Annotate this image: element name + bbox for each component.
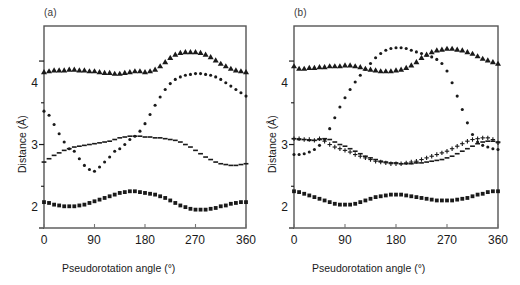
marker-plus bbox=[470, 137, 474, 141]
marker-square bbox=[189, 207, 193, 211]
series-dashed-line-series bbox=[292, 138, 501, 165]
marker-square bbox=[229, 202, 233, 206]
marker-triangle bbox=[117, 71, 123, 76]
panel-b-plot-area bbox=[250, 0, 520, 285]
marker-diamond bbox=[451, 81, 454, 84]
marker-diamond bbox=[379, 52, 382, 55]
marker-triangle bbox=[464, 49, 470, 54]
marker-square bbox=[173, 201, 177, 205]
marker-diamond bbox=[298, 153, 301, 156]
marker-diamond bbox=[154, 104, 157, 107]
marker-diamond bbox=[73, 150, 76, 153]
marker-diamond bbox=[461, 108, 464, 111]
marker-diamond bbox=[486, 145, 489, 148]
marker-triangle bbox=[495, 61, 501, 66]
marker-triangle bbox=[81, 67, 87, 72]
marker-dash bbox=[223, 164, 228, 166]
marker-diamond bbox=[333, 116, 336, 119]
marker-square bbox=[420, 196, 424, 200]
marker-square bbox=[184, 205, 188, 209]
marker-diamond bbox=[239, 91, 242, 94]
marker-dash bbox=[213, 161, 218, 163]
marker-diamond bbox=[189, 73, 192, 76]
marker-dash bbox=[353, 150, 358, 152]
marker-dash bbox=[127, 135, 132, 137]
marker-triangle bbox=[398, 67, 404, 72]
marker-triangle bbox=[327, 63, 333, 68]
marker-triangle bbox=[51, 67, 57, 72]
marker-triangle bbox=[177, 50, 183, 55]
marker-dash bbox=[163, 138, 168, 140]
marker-triangle bbox=[352, 63, 358, 68]
marker-square bbox=[496, 189, 500, 193]
marker-square bbox=[57, 204, 61, 208]
panel-b: (b) Distance (Å) Pseudorotation angle (°… bbox=[250, 0, 520, 285]
marker-triangle bbox=[56, 67, 62, 72]
marker-diamond bbox=[78, 157, 81, 160]
marker-square bbox=[209, 207, 213, 211]
marker-dash bbox=[470, 145, 475, 147]
marker-dash bbox=[203, 156, 208, 158]
marker-triangle bbox=[301, 66, 307, 71]
marker-dash bbox=[62, 150, 67, 152]
marker-triangle bbox=[454, 46, 460, 51]
marker-square bbox=[214, 206, 218, 210]
marker-dash bbox=[485, 140, 490, 142]
marker-diamond bbox=[491, 147, 494, 150]
marker-square bbox=[219, 204, 223, 208]
marker-dash bbox=[178, 141, 183, 143]
marker-square bbox=[471, 194, 475, 198]
marker-plus bbox=[430, 154, 434, 158]
marker-diamond bbox=[328, 127, 331, 130]
marker-diamond bbox=[219, 78, 222, 81]
marker-plus bbox=[353, 152, 357, 156]
marker-triangle bbox=[429, 49, 435, 54]
marker-triangle bbox=[198, 50, 204, 55]
marker-square bbox=[72, 204, 76, 208]
marker-dash bbox=[47, 158, 52, 160]
marker-triangle bbox=[193, 49, 199, 54]
marker-diamond bbox=[440, 62, 443, 65]
marker-dash bbox=[72, 146, 77, 148]
marker-triangle bbox=[342, 62, 348, 67]
marker-triangle bbox=[218, 61, 224, 66]
marker-triangle bbox=[459, 47, 465, 52]
marker-square bbox=[445, 199, 449, 203]
series-diamond-series bbox=[42, 72, 247, 173]
marker-diamond bbox=[199, 72, 202, 75]
marker-triangle bbox=[434, 47, 440, 52]
marker-dash bbox=[107, 140, 112, 142]
marker-square bbox=[123, 190, 127, 194]
marker-plus bbox=[465, 139, 469, 143]
marker-square bbox=[358, 200, 362, 204]
marker-triangle bbox=[233, 67, 239, 72]
marker-square bbox=[77, 204, 81, 208]
marker-triangle bbox=[408, 62, 414, 67]
marker-triangle bbox=[383, 68, 389, 73]
figure-canvas: (a) Distance (Å) Pseudorotation angle (°… bbox=[0, 0, 520, 285]
marker-square bbox=[93, 199, 97, 203]
marker-diamond bbox=[149, 113, 152, 116]
marker-square bbox=[404, 194, 408, 198]
marker-square bbox=[98, 198, 102, 202]
marker-square bbox=[313, 195, 317, 199]
marker-square bbox=[415, 195, 419, 199]
marker-square bbox=[379, 194, 383, 198]
marker-dash bbox=[460, 150, 465, 152]
marker-diamond bbox=[318, 144, 321, 147]
marker-plus bbox=[440, 151, 444, 155]
marker-square bbox=[455, 198, 459, 202]
marker-square bbox=[318, 197, 322, 201]
marker-square bbox=[83, 203, 87, 207]
marker-dash bbox=[445, 157, 450, 159]
marker-dash bbox=[198, 153, 203, 155]
marker-square bbox=[153, 193, 157, 197]
marker-dash bbox=[465, 148, 470, 150]
marker-triangle bbox=[388, 68, 394, 73]
marker-triangle bbox=[102, 70, 108, 75]
marker-square bbox=[194, 208, 198, 212]
marker-plus bbox=[481, 136, 485, 140]
marker-dash bbox=[419, 162, 424, 164]
series-dashed-line-series bbox=[42, 135, 249, 166]
marker-triangle bbox=[41, 69, 47, 74]
